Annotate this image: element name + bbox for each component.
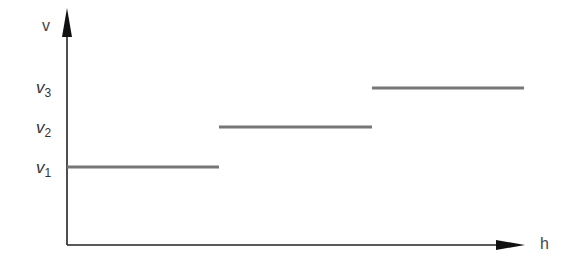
x-axis-arrow-icon [496,240,525,250]
y-axis-label: v [42,18,50,34]
y-tick-label-v1: v1 [36,159,51,179]
step-chart [0,0,569,263]
y-axis-arrow-icon [62,8,72,37]
y-tick-label-v3: v3 [36,79,51,99]
y-tick-label-v2: v2 [36,119,51,139]
x-axis-label: h [540,236,549,252]
